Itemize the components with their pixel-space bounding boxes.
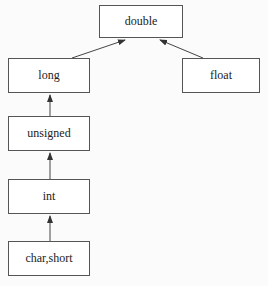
edge-long-double [72, 40, 125, 58]
node-label: char,short [25, 251, 72, 266]
node-label: float [210, 68, 232, 83]
diagram-canvas: double long float unsigned int char,shor… [0, 0, 268, 286]
node-float: float [182, 58, 260, 93]
node-label: double [125, 14, 158, 29]
node-label: long [38, 68, 59, 83]
node-char-short: char,short [8, 241, 90, 276]
node-long: long [8, 58, 90, 93]
node-int: int [8, 179, 90, 214]
node-unsigned: unsigned [8, 116, 90, 151]
node-label: unsigned [27, 126, 70, 141]
node-label: int [43, 189, 56, 204]
edge-float-double [160, 40, 203, 58]
node-double: double [99, 5, 183, 38]
